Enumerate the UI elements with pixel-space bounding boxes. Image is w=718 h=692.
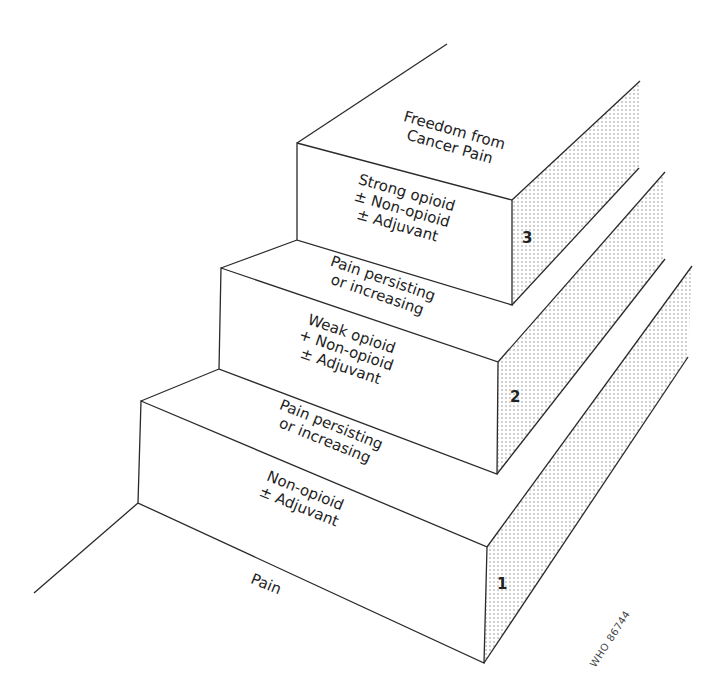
ground-lines: [34, 503, 138, 593]
step-2-number: 2: [510, 388, 520, 406]
step-1-number: 1: [497, 575, 507, 593]
step-3-number: 3: [522, 229, 532, 247]
